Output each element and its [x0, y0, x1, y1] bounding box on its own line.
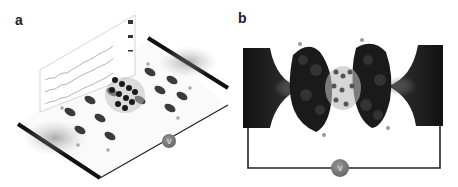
voltage-label: V	[167, 138, 172, 145]
junction-3d-diagram: V	[0, 0, 230, 187]
junction-topview-diagram: V	[228, 0, 458, 187]
panel-a: a	[0, 0, 230, 187]
panel-b: b	[228, 0, 458, 187]
voltage-label: V	[338, 165, 343, 172]
molecular-orbitals	[290, 38, 392, 137]
